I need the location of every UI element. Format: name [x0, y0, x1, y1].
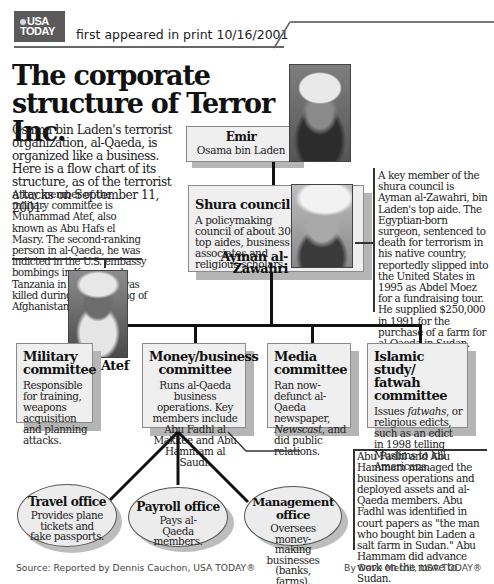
usa-today-logo: USA TODAY: [14, 11, 65, 42]
atef-name: Atef: [101, 358, 129, 373]
header-slant-divider: [272, 19, 302, 49]
military-title: Military committee: [23, 350, 88, 376]
money-title: Money/business committee: [149, 350, 241, 376]
header-divider: [14, 46, 284, 48]
military-committee-box: Military committee Responsible for train…: [16, 343, 93, 423]
management-office-title: Management office: [245, 496, 341, 522]
emir-box: Emir Osama bin Laden: [186, 126, 296, 162]
header-top-divider: [292, 21, 494, 23]
connector-media: [311, 324, 314, 344]
zawahri-name: Ayman al-Zawahri: [215, 251, 288, 275]
connector-committee-bus: [128, 324, 422, 327]
management-office-description: Oversees money-making businesses (banks,…: [245, 523, 341, 584]
travel-office-title: Travel office: [18, 496, 116, 509]
print-date-note: first appeared in print 10/16/2001: [76, 27, 289, 42]
logo-line-2: TODAY: [20, 25, 55, 37]
media-committee-box: Media committee Ran now-defunct al-Qaeda…: [267, 343, 351, 428]
atef-note-connector: [104, 258, 106, 268]
zawahri-note: A key member of the shura council is Aym…: [378, 170, 490, 349]
islamic-committee-box: Islamic study/ fatwah committee Issues f…: [367, 343, 468, 428]
source-credit: Source: Reported by Dennis Cauchon, USA …: [16, 562, 255, 573]
connector-money: [194, 324, 197, 344]
payroll-office-title: Payroll office: [129, 501, 227, 514]
payroll-office-oval: Payroll office Pays al-Qaeda members.: [128, 487, 228, 547]
connector-emir-shura: [272, 162, 275, 186]
zawahri-note-connector: [355, 242, 374, 244]
zawahri-photo: [291, 184, 353, 268]
media-title: Media committee: [274, 350, 346, 376]
management-office-oval: Management office Oversees money-making …: [244, 486, 342, 546]
emir-name: Osama bin Laden: [187, 144, 295, 156]
travel-office-oval: Travel office Provides plane tickets and…: [17, 484, 117, 547]
connector-islamic: [419, 324, 422, 344]
islamic-title: Islamic study/ fatwah committee: [374, 350, 463, 402]
money-committee-box: Money/business committee Runs al-Qaeda b…: [142, 343, 246, 428]
zawahri-note-rule: [373, 168, 375, 312]
travel-office-description: Provides plane tickets and fake passport…: [18, 510, 116, 542]
connector-shura-down: [270, 272, 273, 326]
emir-title: Emir: [187, 131, 295, 144]
money-note-rule: [353, 450, 355, 550]
payroll-office-description: Pays al-Qaeda members.: [129, 515, 227, 547]
bin-laden-photo: [289, 64, 351, 162]
byline: By Dave Merrill, USA TODAY®: [344, 562, 482, 573]
atef-note-divider: [12, 258, 142, 260]
